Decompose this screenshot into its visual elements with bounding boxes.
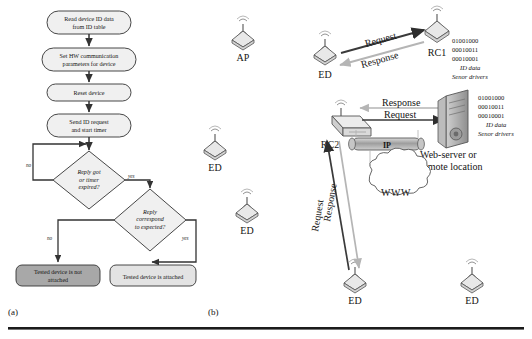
- arrow-request-server-label: Request: [384, 109, 416, 120]
- node-rc1: RC1: [425, 6, 449, 58]
- node-ap: AP: [232, 16, 254, 63]
- step-set-hw-line1: Set HW communication: [60, 53, 119, 59]
- step-reset: Reset device: [47, 84, 131, 101]
- arrow-response-server-label: Response: [382, 97, 421, 108]
- data-block-rc1: 01001000 00010011 00010001 ID data Senor…: [452, 37, 488, 80]
- step-send-request-line1: Send ID request: [69, 119, 109, 125]
- arrow-response-ed-label: Response: [321, 182, 339, 222]
- data-block-rc1-id: ID data: [459, 64, 481, 71]
- terminal-attached: Tested device is attached: [110, 265, 196, 286]
- terminal-not-attached-line2: attached: [48, 277, 68, 283]
- node-ed-mid-label: ED: [240, 225, 253, 236]
- caption-a: (a): [8, 307, 18, 317]
- node-rc2-label: RC2: [321, 139, 339, 150]
- bottom-rule: [8, 327, 524, 330]
- terminal-attached-line1: Tested device is attached: [123, 274, 184, 280]
- step-set-hw-line2: parameters for device: [63, 61, 116, 67]
- decision1-line2: or timer: [79, 177, 99, 183]
- node-ap-label: AP: [237, 52, 250, 63]
- node-ed-bottom: ED: [344, 259, 366, 306]
- step-read-id-line2: from ID table: [72, 24, 105, 30]
- arrow-request-rc1-label: Request: [364, 30, 398, 49]
- data-block-server-id: ID data: [485, 121, 507, 128]
- ip-pipe: IP: [349, 138, 425, 150]
- node-ed-mid: ED: [236, 189, 258, 236]
- decision2-line3: to expected?: [135, 224, 166, 230]
- figure-container: Read device ID data from ID table Set HW…: [0, 0, 532, 339]
- data-block-rc1-bin3: 00010001: [452, 55, 478, 62]
- data-block-rc1-bin2: 00010011: [452, 46, 478, 53]
- decision-reply-timer: Reply got or timer expired?: [53, 151, 125, 209]
- node-ed-rc1: ED: [314, 31, 336, 80]
- decision2-line2: correspond: [136, 216, 164, 222]
- terminal-not-attached-line1: Tested device is not: [34, 269, 82, 275]
- decision2-no-label: no: [47, 235, 53, 241]
- step-set-hw: Set HW communication parameters for devi…: [42, 48, 136, 71]
- server-icon: [438, 90, 468, 148]
- arrow-response-rc1-label: Response: [360, 49, 400, 70]
- step-read-id: Read device ID data from ID table: [47, 11, 131, 34]
- caption-b: (b): [208, 307, 219, 317]
- flowchart-panel: Read device ID data from ID table Set HW…: [16, 11, 196, 286]
- step-reset-line1: Reset device: [74, 90, 105, 96]
- data-block-server-drv: Senor drivers: [478, 130, 514, 137]
- node-ed-left-top: ED: [204, 126, 226, 173]
- ip-pipe-label: IP: [383, 141, 391, 150]
- step-read-id-line1: Read device ID data: [64, 16, 114, 22]
- node-ed-rc1-label: ED: [318, 69, 331, 80]
- step-send-request: Send ID request and start timer: [47, 114, 131, 137]
- decision1-line3: expired?: [78, 184, 99, 190]
- node-ed-bottom-label: ED: [348, 295, 361, 306]
- decision1-line1: Reply got: [76, 169, 100, 175]
- node-ed-right: ED: [461, 259, 483, 306]
- node-ed-right-label: ED: [465, 295, 478, 306]
- arrow-response-ed: [339, 141, 359, 268]
- decision1-yes-label: yes: [127, 173, 135, 179]
- decision-reply-expected: Reply correspond to expected?: [114, 189, 186, 251]
- node-rc1-label: RC1: [428, 47, 446, 58]
- data-block-server: 01001000 00010011 00010001 ID data Senor…: [478, 94, 514, 137]
- step-send-request-line2: and start timer: [71, 127, 106, 133]
- node-ed-left-top-label: ED: [208, 162, 221, 173]
- data-block-rc1-bin1: 01001000: [452, 37, 479, 44]
- data-block-rc1-drv: Senor drivers: [452, 73, 488, 80]
- data-block-server-bin2: 00010011: [478, 103, 504, 110]
- network-panel: AP ED ED: [204, 6, 514, 306]
- decision1-no-label: no: [26, 162, 32, 168]
- decision2-yes-label: yes: [181, 235, 189, 241]
- data-block-server-bin3: 00010001: [478, 112, 504, 119]
- www-cloud-label: WWW: [381, 187, 411, 198]
- server-caption-line1: Web-server or: [420, 149, 477, 160]
- terminal-not-attached: Tested device is not attached: [16, 265, 100, 286]
- decision2-line1: Reply: [142, 209, 157, 215]
- data-block-server-bin1: 01001000: [478, 94, 505, 101]
